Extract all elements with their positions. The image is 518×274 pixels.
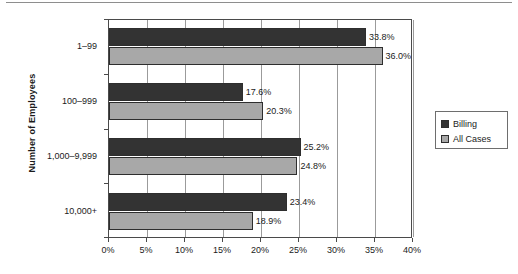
- y-axis-label: 1–99: [77, 41, 97, 51]
- chart-legend: BillingAll Cases: [435, 111, 508, 149]
- x-axis-tick: [222, 238, 223, 242]
- bar-group: 33.8%36.0%: [109, 28, 411, 66]
- legend-swatch-billing-icon: [441, 120, 449, 128]
- bars-layer: 33.8%36.0%17.6%20.3%25.2%24.8%23.4%18.9%: [109, 20, 411, 237]
- x-axis-tick: [260, 238, 261, 242]
- bar-billing[interactable]: [109, 83, 243, 101]
- bar-billing[interactable]: [109, 28, 366, 46]
- bar-value-label: 18.9%: [256, 212, 282, 230]
- x-axis-label: 10%: [164, 245, 204, 255]
- bar-value-label: 23.4%: [290, 193, 316, 211]
- legend-item-billing[interactable]: Billing: [441, 117, 477, 131]
- bar-value-label: 24.8%: [300, 157, 326, 175]
- bar-all-cases[interactable]: [109, 47, 383, 65]
- bar-billing[interactable]: [109, 138, 301, 156]
- x-axis-tick: [412, 238, 413, 242]
- y-axis-label: 10,000+: [64, 206, 97, 216]
- bar-value-label: 33.8%: [369, 28, 395, 46]
- legend-label: All Cases: [453, 134, 491, 144]
- bar-all-cases[interactable]: [109, 212, 253, 230]
- bar-chart-figure: Number of Employees 1–99100–9991,000–9,9…: [0, 0, 518, 274]
- bar-value-label: 17.6%: [246, 83, 272, 101]
- x-axis-tick: [336, 238, 337, 242]
- x-axis-label: 5%: [126, 245, 166, 255]
- x-axis: 0%5%10%15%20%25%30%35%40%: [108, 238, 412, 268]
- x-axis-tick: [184, 238, 185, 242]
- bar-all-cases[interactable]: [109, 157, 297, 175]
- x-axis-label: 20%: [240, 245, 280, 255]
- legend-label: Billing: [453, 119, 477, 129]
- x-axis-label: 35%: [354, 245, 394, 255]
- x-axis-label: 15%: [202, 245, 242, 255]
- bar-value-label: 36.0%: [386, 47, 412, 65]
- x-axis-tick: [146, 238, 147, 242]
- bar-all-cases[interactable]: [109, 102, 263, 120]
- x-axis-label: 30%: [316, 245, 356, 255]
- x-axis-tick: [298, 238, 299, 242]
- x-axis-label: 0%: [88, 245, 128, 255]
- x-axis-label: 25%: [278, 245, 318, 255]
- bar-group: 23.4%18.9%: [109, 193, 411, 231]
- bar-group: 25.2%24.8%: [109, 138, 411, 176]
- x-axis-tick: [108, 238, 109, 242]
- bar-value-label: 25.2%: [304, 138, 330, 156]
- bar-value-label: 20.3%: [266, 102, 292, 120]
- legend-item-all-cases[interactable]: All Cases: [441, 132, 491, 146]
- y-axis-label: 1,000–9,999: [47, 151, 97, 161]
- x-axis-tick: [374, 238, 375, 242]
- bar-group: 17.6%20.3%: [109, 83, 411, 121]
- y-axis-category-labels: 1–99100–9991,000–9,99910,000+: [0, 19, 104, 238]
- gridline: [413, 20, 414, 237]
- x-axis-label: 40%: [392, 245, 432, 255]
- y-axis-label: 100–999: [62, 96, 97, 106]
- legend-swatch-all-cases-icon: [441, 135, 449, 143]
- plot-area: 33.8%36.0%17.6%20.3%25.2%24.8%23.4%18.9%: [108, 19, 412, 238]
- bar-billing[interactable]: [109, 193, 287, 211]
